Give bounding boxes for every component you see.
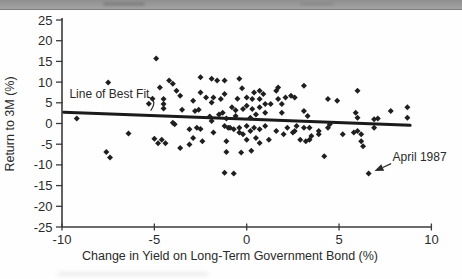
data-point [105,80,111,86]
data-point [162,140,168,146]
data-point [186,142,192,148]
x-tick-label: 10 [424,232,438,247]
y-tick-label: -15 [34,178,53,193]
data-point [257,126,263,132]
y-tick-label: 0 [45,116,52,131]
data-point [223,116,229,122]
data-point [273,128,279,134]
data-point [238,149,244,155]
figure-scan: -10-50510 2520151050-5-10-15-20-25 Line … [0,0,462,279]
data-point [155,140,161,146]
april-1987-arrowhead [375,164,385,171]
data-point [249,106,255,112]
y-tick-label: -5 [41,137,53,152]
annotation-april-1987: April 1987 [375,150,447,171]
data-point [262,101,268,107]
data-point [239,85,245,91]
data-point [107,154,113,160]
data-point [253,111,259,117]
data-point [355,115,361,121]
data-point [284,125,290,131]
data-point [74,116,80,122]
data-point [281,131,287,137]
data-point [262,123,268,129]
y-axis-ticks: 2520151050-5-10-15-20-25 [34,13,63,235]
data-point [203,94,209,100]
data-point [279,110,285,116]
data-point [253,135,259,141]
best-fit-label: Line of Best Fit [69,87,150,101]
data-point [179,107,185,113]
data-point [266,137,272,143]
data-point [262,110,268,116]
data-point [301,125,307,131]
data-point [125,130,131,136]
y-tick-label: 25 [38,13,52,28]
x-tick-label: 0 [243,232,250,247]
data-point [218,96,224,102]
data-point [249,96,255,102]
data-point [257,140,263,146]
data-point [388,108,394,114]
data-point [236,76,242,82]
data-point [325,96,331,102]
data-point [223,149,229,155]
data-point [177,93,183,99]
y-tick-label: 15 [38,54,52,69]
data-point [358,138,364,144]
y-tick-label: -25 [34,220,53,235]
data-point [360,143,366,149]
data-point [301,108,307,114]
data-point [153,56,159,62]
data-point [244,123,250,129]
data-point [257,96,263,102]
data-point [198,89,204,95]
y-tick-label: 20 [38,33,52,48]
data-point [334,98,340,104]
x-axis-title: Change in Yield on Long-Term Government … [82,249,378,263]
data-point [321,153,327,159]
x-tick-label: -10 [53,232,72,247]
scan-artifact [58,272,208,276]
data-point [355,88,361,94]
april-1987-leader-line [383,164,391,168]
april-1987-label: April 1987 [393,150,447,164]
data-point [251,89,257,95]
data-point [177,145,183,151]
data-point [103,149,109,155]
data-point [257,104,263,110]
data-point [222,170,228,176]
data-point [186,126,192,132]
data-point [268,101,274,107]
data-point [190,98,196,104]
data-point [275,96,281,102]
x-tick-label: 5 [335,232,342,247]
data-point [174,88,180,94]
annotation-best-fit: Line of Best Fit [69,87,153,111]
data-point [223,138,229,144]
data-point [279,101,285,107]
data-point [316,131,322,137]
x-tick-label: -5 [149,232,161,247]
data-point [222,91,228,97]
data-point [244,137,250,143]
data-point [161,106,167,112]
data-point [209,76,215,82]
data-point [210,94,216,100]
data-point [340,131,346,137]
data-point [353,110,359,116]
data-point [404,104,410,110]
y-tick-label: 10 [38,75,52,90]
data-point [151,136,157,142]
data-point [297,137,303,143]
data-point [157,84,163,90]
data-point [231,171,237,177]
data-point [159,137,165,143]
data-point [234,96,240,102]
y-tick-label: -10 [34,157,53,172]
data-point [199,138,205,144]
y-tick-label: -20 [34,199,53,214]
axes [62,18,432,227]
data-point [210,130,216,136]
y-axis-title: Return to 3M (%) [3,76,17,171]
